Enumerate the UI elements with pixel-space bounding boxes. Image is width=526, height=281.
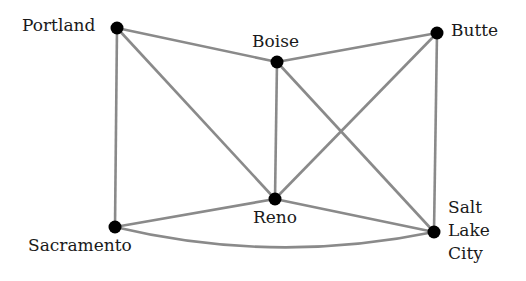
label-salt-lake-city: Salt Lake City	[448, 196, 490, 265]
label-butte: Butte	[451, 19, 498, 42]
node-salt-lake-city[interactable]	[428, 226, 441, 239]
label-sacramento: Sacramento	[28, 234, 132, 257]
edge-boise-salt-lake-city	[277, 62, 434, 232]
edge-sacramento-salt-lake-city	[115, 227, 434, 247]
edge-butte-salt-lake-city	[434, 33, 437, 232]
edge-reno-salt-lake-city	[275, 199, 434, 232]
node-butte[interactable]	[431, 27, 444, 40]
label-portland: Portland	[22, 14, 95, 37]
edge-boise-reno	[275, 62, 277, 199]
edge-sacramento-reno	[115, 199, 275, 227]
label-boise: Boise	[252, 30, 299, 53]
label-reno: Reno	[253, 206, 297, 229]
node-portland[interactable]	[111, 22, 124, 35]
node-boise[interactable]	[271, 56, 284, 69]
edge-portland-reno	[117, 28, 275, 199]
node-reno[interactable]	[269, 193, 282, 206]
node-sacramento[interactable]	[109, 221, 122, 234]
edge-portland-sacramento	[115, 28, 117, 227]
